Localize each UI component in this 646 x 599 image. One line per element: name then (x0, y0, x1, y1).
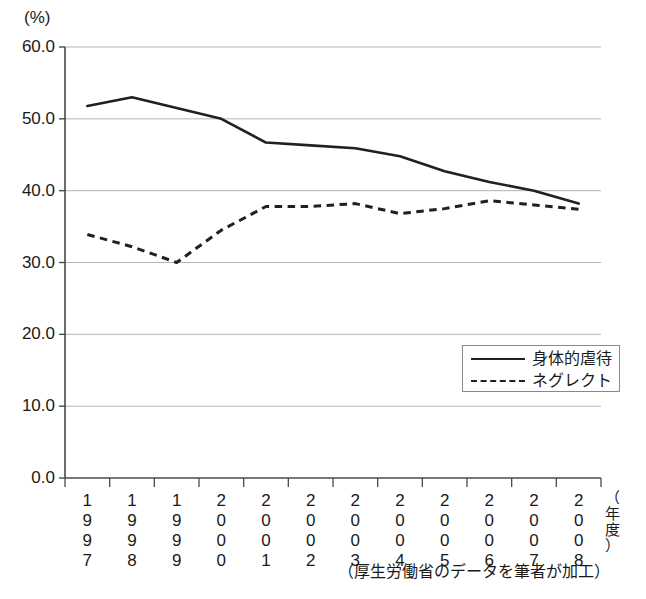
series-line-1 (87, 97, 578, 203)
x-axis-tick-label: 2001 (253, 491, 279, 571)
x-axis-tick-label: 1998 (119, 491, 145, 571)
series-line-2 (87, 201, 578, 263)
x-axis-tick-label: 2002 (298, 491, 324, 571)
x-axis-tick-label: 2005 (432, 491, 458, 571)
x-axis-tick-label: 2006 (476, 491, 502, 571)
y-axis-tickmarks (59, 47, 65, 478)
x-axis-tick-label: 1997 (74, 491, 100, 571)
source-caption: （厚生労働省のデータを筆者が加工） (338, 563, 610, 581)
x-axis-unit-label: （年度） (603, 490, 621, 554)
legend-swatch-solid-line-icon (471, 353, 525, 365)
legend-entry-physical-abuse: 身体的虐待 (463, 347, 619, 370)
x-axis-tickmarks (65, 478, 601, 487)
x-axis-tick-label: 2008 (566, 491, 592, 571)
legend-label-neglect: ネグレクト (532, 373, 612, 389)
x-axis-tick-label: 1999 (164, 491, 190, 571)
legend: 身体的虐待 ネグレクト (462, 345, 620, 392)
legend-entry-neglect: ネグレクト (463, 369, 619, 392)
legend-swatch-dashed-line-icon (471, 375, 525, 387)
x-axis-tick-label: 2000 (208, 491, 234, 571)
x-axis-tick-label: 2004 (387, 491, 413, 571)
chart-container: (%) 60.050.040.030.020.010.00.0 19971998… (0, 0, 646, 599)
x-axis-tick-label: 2003 (342, 491, 368, 571)
x-axis-tick-label: 2007 (521, 491, 547, 571)
legend-label-physical-abuse: 身体的虐待 (532, 351, 612, 367)
data-series-layer (87, 97, 578, 262)
